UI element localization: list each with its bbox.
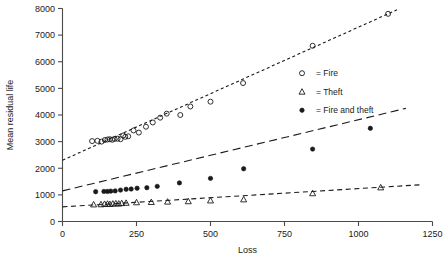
legend-item-theft: = Theft — [299, 87, 343, 97]
y-tick-label: 6000 — [35, 57, 55, 67]
data-point-marker — [143, 124, 148, 129]
x-axis-title: Loss — [238, 245, 258, 255]
chart-container: 0100020003000400050006000700080000250500… — [0, 0, 444, 259]
y-axis-title: Mean residual life — [5, 80, 15, 151]
series-trend-line — [63, 185, 421, 207]
x-tick-label: 1000 — [348, 229, 368, 239]
series-trend-line — [63, 108, 406, 191]
series-fire-and-theft — [63, 108, 406, 194]
data-point-marker — [241, 196, 247, 201]
data-point-marker — [386, 11, 391, 16]
data-point-marker — [91, 201, 97, 206]
data-point-marker — [165, 199, 171, 204]
x-tick-label: 0 — [60, 229, 65, 239]
data-point-marker — [131, 128, 136, 133]
data-point-marker — [178, 113, 183, 118]
x-tick-label: 750 — [277, 229, 292, 239]
data-point-marker — [118, 188, 122, 192]
data-point-marker — [300, 71, 305, 76]
x-tick-label: 1250 — [422, 229, 442, 239]
y-tick-label: 1000 — [35, 190, 55, 200]
legend-item-fire: = Fire — [300, 68, 339, 78]
data-point-marker — [135, 186, 139, 190]
legend-item-fire-and-theft: = Fire and theft — [300, 105, 374, 115]
data-point-marker — [129, 187, 133, 191]
chart-legend: = Fire= Theft= Fire and theft — [299, 68, 374, 115]
y-tick-label: 7000 — [35, 30, 55, 40]
data-point-marker — [113, 189, 117, 193]
data-point-marker — [188, 104, 193, 109]
y-tick-label: 2000 — [35, 164, 55, 174]
x-tick-label: 250 — [129, 229, 144, 239]
data-point-marker — [241, 167, 245, 171]
data-point-marker — [208, 176, 212, 180]
data-point-marker — [310, 147, 314, 151]
x-tick-label: 500 — [203, 229, 218, 239]
data-point-marker — [155, 184, 159, 188]
series-theft — [63, 184, 421, 207]
data-point-marker — [90, 139, 95, 144]
data-point-marker — [368, 126, 372, 130]
data-point-marker — [145, 185, 149, 189]
y-tick-label: 3000 — [35, 137, 55, 147]
y-tick-label: 5000 — [35, 84, 55, 94]
data-point-marker — [299, 89, 305, 94]
data-point-marker — [208, 197, 214, 202]
y-tick-label: 8000 — [35, 4, 55, 14]
data-point-marker — [208, 99, 213, 104]
y-tick-label: 0 — [50, 217, 55, 227]
legend-label: = Fire — [316, 68, 338, 78]
axes: 0100020003000400050006000700080000250500… — [35, 4, 443, 239]
series-fire — [63, 10, 397, 160]
y-tick-label: 4000 — [35, 110, 55, 120]
data-point-marker — [124, 187, 128, 191]
legend-label: = Fire and theft — [316, 105, 374, 115]
data-point-marker — [136, 130, 141, 135]
data-point-marker — [241, 81, 246, 86]
data-point-marker — [300, 108, 304, 112]
data-point-marker — [93, 189, 97, 193]
data-point-marker — [177, 181, 181, 185]
data-point-marker — [126, 134, 131, 139]
legend-label: = Theft — [316, 87, 343, 97]
data-point-marker — [310, 43, 315, 48]
mean-residual-life-scatter-chart: 0100020003000400050006000700080000250500… — [0, 0, 444, 259]
data-point-marker — [150, 120, 155, 125]
data-point-marker — [109, 189, 113, 193]
